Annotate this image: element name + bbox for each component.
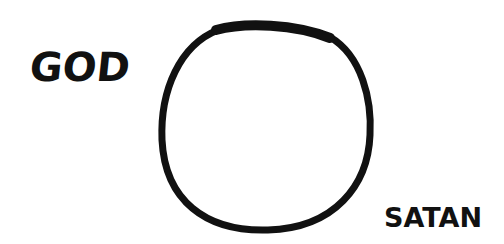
satan-label: SATAN (384, 202, 482, 233)
god-label: GOD (28, 44, 133, 90)
comic-panel: GOD SATAN (0, 0, 504, 244)
circle-thick-top-stroke (216, 25, 330, 38)
circle-outline (162, 25, 370, 230)
